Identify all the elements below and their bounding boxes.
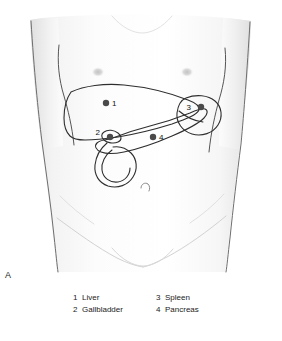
panel-letter: A [5,270,11,281]
marker-number-pancreas: 4 [159,133,164,142]
marker-dot-liver [103,100,109,106]
legend-label-liver: Liver [82,292,99,304]
legend-number-spleen: 3 [156,292,165,304]
left-arm-shading [28,18,63,152]
marker-number-gallbladder: 2 [96,128,101,137]
anatomy-illustration: 1 2 3 4 [0,0,282,341]
legend-label-pancreas: Pancreas [165,304,199,316]
legend-number-pancreas: 4 [156,304,165,316]
marker-number-liver: 1 [112,99,117,108]
marker-number-spleen: 3 [187,103,192,112]
torso-silhouette [30,14,251,272]
left-nipple [92,67,105,77]
marker-dot-gallbladder [107,134,113,140]
legend-label-spleen: Spleen [165,292,190,304]
legend-number-gallbladder: 2 [73,304,82,316]
legend-item-spleen: 3 Spleen [156,292,239,304]
legend-number-liver: 1 [73,292,82,304]
legend-label-gallbladder: Gallbladder [82,304,123,316]
marker-dot-spleen [198,104,204,110]
marker-dot-pancreas [150,134,156,140]
legend: 1 Liver 3 Spleen 2 Gallbladder 4 Pancrea… [73,292,233,316]
right-nipple [181,67,194,77]
legend-item-pancreas: 4 Pancreas [156,304,239,316]
legend-item-gallbladder: 2 Gallbladder [73,304,156,316]
legend-item-liver: 1 Liver [73,292,156,304]
torso-body [28,14,254,272]
anatomy-figure: 1 2 3 4 A 1 Liver 3 Spleen [0,0,282,341]
